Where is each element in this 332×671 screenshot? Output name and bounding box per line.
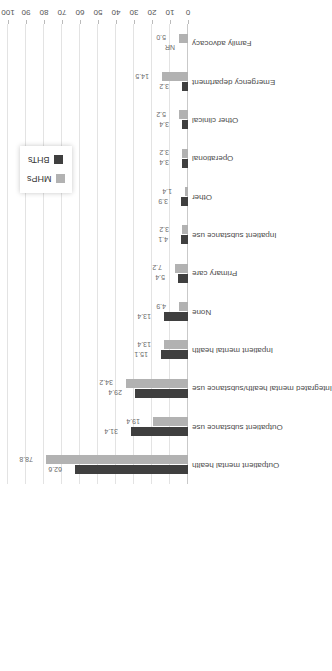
bar-slot: 3.9 (8, 197, 188, 206)
bar-bht (182, 82, 188, 91)
category-axis-tick: Integrated mental health/substance use (190, 369, 320, 407)
bar-value-label: 1.4 (163, 188, 173, 195)
bar-slot: 13.4 (8, 312, 188, 321)
bar-value-label: 7.2 (152, 264, 162, 271)
bar-slot: 4.9 (8, 302, 188, 311)
bar-value-label: 5.4 (156, 274, 166, 281)
bar-bht (178, 274, 188, 283)
bar-group: 13.44.9 (8, 292, 188, 330)
bar-group: NR5.0 (8, 24, 188, 62)
bar-value-label: 14.5 (135, 73, 149, 80)
category-axis-tick: Outpatient substance use (190, 407, 320, 445)
bar-slot: 7.2 (8, 264, 188, 273)
value-axis-tick-label: 90 (22, 8, 31, 17)
bar-bht (135, 389, 188, 398)
tick-mark (26, 20, 27, 24)
category-axis-tick: Family advocacy (190, 24, 320, 62)
bar-slot: 5.2 (8, 110, 188, 119)
category-axis-tick: Inpatient substance use (190, 216, 320, 254)
bar-mhp (185, 187, 188, 196)
bar-slot: 19.4 (8, 417, 188, 426)
bar-value-label: 34.2 (100, 379, 114, 386)
bar-value-label: 15.1 (134, 351, 148, 358)
bar-groups: 62.678.831.419.429.434.215.113.413.44.95… (8, 24, 188, 484)
category-axis-tick: Emergency department (190, 62, 320, 100)
plot-area: 62.678.831.419.429.434.215.113.413.44.95… (8, 24, 188, 484)
bar-value-label: 4.1 (158, 236, 168, 243)
tick-mark (188, 20, 189, 24)
bar-group: 4.13.2 (8, 216, 188, 254)
legend-item[interactable]: BHTs (28, 155, 63, 165)
bar-bht (75, 465, 188, 474)
value-axis-tick-label: 80 (40, 8, 49, 17)
value-axis-tick-label: 30 (130, 8, 139, 17)
bar-value-label: 13.4 (137, 341, 151, 348)
bar-mhp (179, 302, 188, 311)
bar-mhp (179, 110, 188, 119)
category-axis-tick: Other (190, 177, 320, 215)
bar-slot: 13.4 (8, 340, 188, 349)
bar-value-label: 3.2 (160, 226, 170, 233)
tick-mark (80, 20, 81, 24)
bar-bht (182, 159, 188, 168)
category-axis-tick-label: Operational (192, 154, 233, 163)
bar-group: 3.45.2 (8, 101, 188, 139)
category-axis-tick-label: Emergency department (192, 77, 275, 86)
legend-label: BHTs (28, 155, 50, 165)
bar-value-label: 31.4 (105, 428, 119, 435)
bar-bht (181, 197, 188, 206)
bar-slot: 3.4 (8, 120, 188, 129)
bar-value-label: 29.4 (108, 389, 122, 396)
tick-mark (44, 20, 45, 24)
value-axis-tick-label: 50 (94, 8, 103, 17)
bar-value-label: 3.4 (159, 121, 169, 128)
bar-bht (164, 312, 188, 321)
category-axis-tick: None (190, 292, 320, 330)
bar-value-label: 3.4 (159, 159, 169, 166)
bar-group: 62.678.8 (8, 446, 188, 484)
bar-slot: 3.2 (8, 82, 188, 91)
bar-mhp (162, 72, 188, 81)
tick-mark (170, 20, 171, 24)
value-axis-tick-label: 0 (186, 8, 190, 17)
legend-item[interactable]: MHPs (27, 174, 65, 184)
category-axis-tick-label: Outpatient mental health (192, 460, 279, 469)
tick-mark (134, 20, 135, 24)
bar-slot: 5.0 (8, 34, 188, 43)
bar-slot: 14.5 (8, 72, 188, 81)
bar-mhp (164, 340, 188, 349)
value-axis: 0102030405060708090100 (8, 0, 188, 24)
tick-mark (8, 20, 9, 24)
category-axis-tick-label: Outpatient substance use (192, 422, 283, 431)
bar-mhp (175, 264, 188, 273)
tick-mark (152, 20, 153, 24)
bar-value-label: 3.9 (158, 198, 168, 205)
bar-mhp (126, 379, 188, 388)
value-axis-tick-label: 10 (166, 8, 175, 17)
bar-bht (131, 427, 188, 436)
bar-slot: 31.4 (8, 427, 188, 436)
category-axis-tick-label: Family advocacy (192, 39, 252, 48)
bar-bht (181, 235, 188, 244)
bar-bht (182, 120, 188, 129)
bar-value-label: 78.8 (20, 456, 34, 463)
value-axis-tick-label: 60 (76, 8, 85, 17)
bar-slot: 29.4 (8, 389, 188, 398)
tick-mark (98, 20, 99, 24)
category-axis-tick: Inpatient mental health (190, 331, 320, 369)
legend-swatch (56, 175, 65, 184)
category-axis-tick: Other clinical (190, 101, 320, 139)
bar-slot: 34.2 (8, 379, 188, 388)
category-axis-tick-label: Other (192, 192, 212, 201)
bar-slot: 4.1 (8, 235, 188, 244)
category-axis-tick: Primary care (190, 254, 320, 292)
bar-value-label: 62.6 (49, 466, 63, 473)
bar-group: 5.47.2 (8, 254, 188, 292)
value-axis-tick-label: 70 (58, 8, 67, 17)
bar-group: 31.419.4 (8, 407, 188, 445)
bar-mhp (182, 149, 188, 158)
chart-legend: BHTsMHPs (20, 146, 72, 193)
bar-mhp (182, 225, 188, 234)
